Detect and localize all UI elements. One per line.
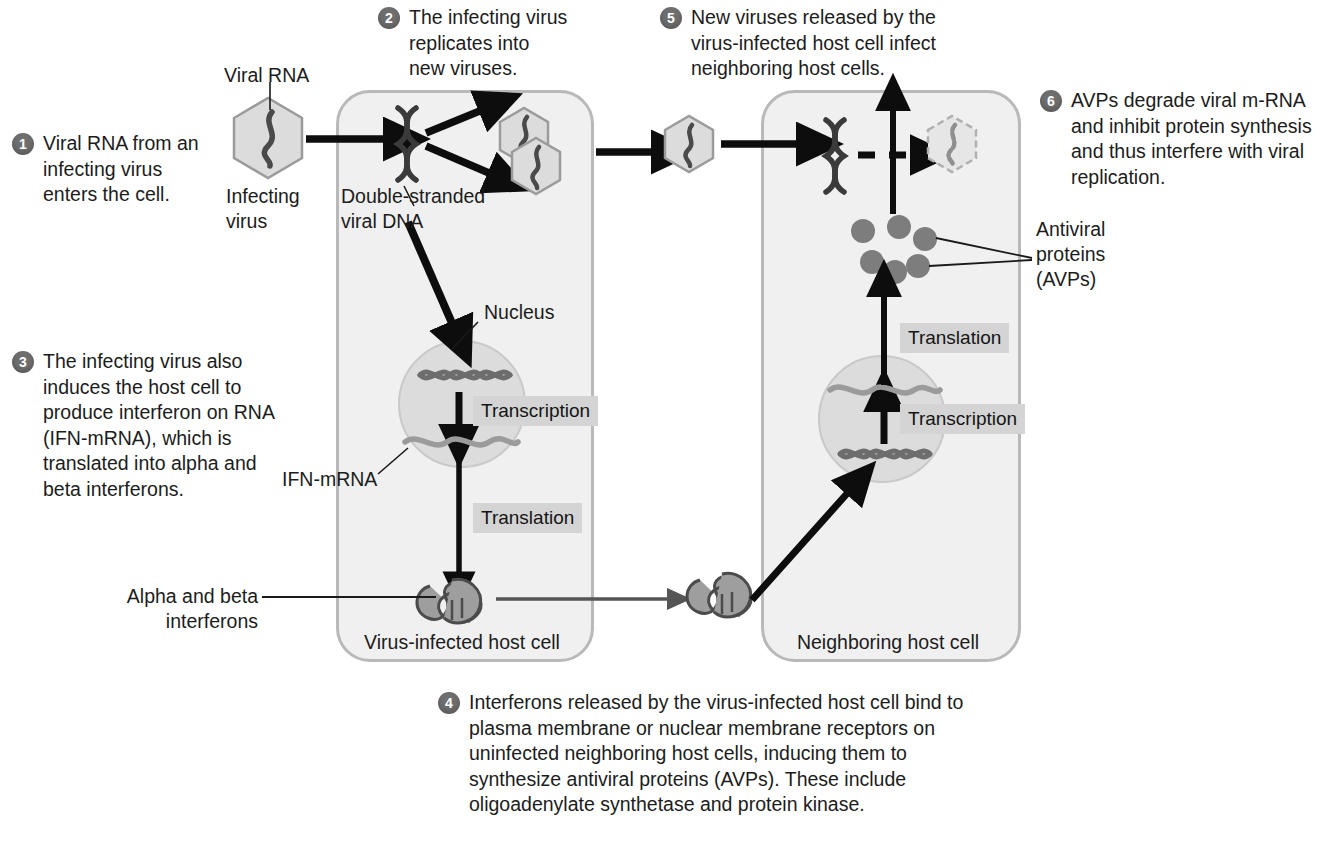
step-5-badge: 5 <box>660 7 682 29</box>
label-ifn-mrna: IFN-mRNA <box>282 467 377 492</box>
step-1-text: Viral RNA from an infecting virus enters… <box>43 131 199 208</box>
nuclear-dna-left <box>420 372 510 378</box>
step-4-badge: 4 <box>438 692 460 714</box>
virus-blocked <box>928 116 976 172</box>
label-double-stranded-viral-dna: Double-stranded viral DNA <box>341 184 485 234</box>
label-infecting-virus: Infecting virus <box>226 184 300 234</box>
interferon-knot-left <box>417 579 481 623</box>
tag-translation-left: Translation <box>473 503 582 533</box>
antiviral-protein-dots <box>851 215 937 284</box>
virus-new-2 <box>512 138 560 194</box>
step-1-badge: 1 <box>12 133 34 155</box>
virus-released <box>665 116 713 172</box>
nuclear-dna-right <box>840 451 930 457</box>
step-3-text: The infecting virus also induces the hos… <box>43 349 275 502</box>
step-3: 3 The infecting virus also induces the h… <box>12 349 302 502</box>
mrna-right <box>830 387 940 393</box>
label-nucleus: Nucleus <box>484 300 554 325</box>
step-4-text: Interferons released by the virus-infect… <box>469 690 963 818</box>
step-5: 5 New viruses released by the virus-infe… <box>660 5 990 82</box>
step-1: 1 Viral RNA from an infecting virus ente… <box>12 131 262 208</box>
label-viral-rna: Viral RNA <box>224 63 309 88</box>
step-6: 6 AVPs degrade viral m-RNA and inhibit p… <box>1040 88 1330 190</box>
tag-transcription-right: Transcription <box>900 404 1025 434</box>
step-2-text: The infecting virus replicates into new … <box>409 5 567 82</box>
ifn-mrna-left <box>405 439 518 445</box>
step-4: 4 Interferons released by the virus-infe… <box>438 690 1058 818</box>
step-6-badge: 6 <box>1040 90 1062 112</box>
double-stranded-viral-dna <box>398 108 416 180</box>
label-neighboring-host-cell: Neighboring host cell <box>762 630 1014 655</box>
viral-dna-right <box>826 120 844 192</box>
label-virus-infected-host-cell: Virus-infected host cell <box>337 630 587 655</box>
step-3-badge: 3 <box>12 351 34 373</box>
interferon-knot-right <box>687 573 751 617</box>
step-6-text: AVPs degrade viral m-RNA and inhibit pro… <box>1071 88 1312 190</box>
step-5-text: New viruses released by the virus-infect… <box>691 5 936 82</box>
step-2: 2 The infecting virus replicates into ne… <box>378 5 628 82</box>
label-antiviral-proteins: Antiviral proteins (AVPs) <box>1036 217 1105 292</box>
tag-transcription-left: Transcription <box>473 396 598 426</box>
tag-translation-right: Translation <box>900 323 1009 353</box>
label-alpha-beta-interferons: Alpha and beta interferons <box>68 584 258 634</box>
step-2-badge: 2 <box>378 7 400 29</box>
